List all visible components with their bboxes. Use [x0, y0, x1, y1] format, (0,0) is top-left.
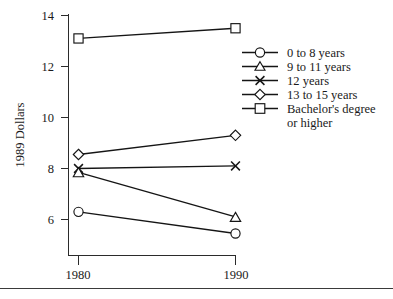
- chart-plot-area: 14 12 10 8 6 1989 Dollars 1980 1990: [0, 0, 393, 299]
- series-line-13-to-15-years: [79, 135, 236, 154]
- legend-label-9-to-11-years: 9 to 11 years: [287, 60, 351, 74]
- chart-figure: 14 12 10 8 6 1989 Dollars 1980 1990: [0, 0, 393, 299]
- legend-entry-12-years[interactable]: 12 years: [242, 74, 329, 88]
- legend-entry-bachelors-degree-or-higher[interactable]: Bachelor's degree or higher: [242, 102, 376, 130]
- legend-label-bachelors-degree-line2: or higher: [287, 116, 333, 130]
- data-point-bachelors-1990: [231, 24, 240, 33]
- y-axis-tick-label-12: 12: [42, 60, 55, 74]
- data-point-9-to-11-years-1990: [230, 212, 240, 221]
- data-point-bachelors-1980: [74, 34, 83, 43]
- data-point-0-to-8-years-1990: [231, 229, 240, 238]
- data-point-13-to-15-years-1980: [73, 149, 83, 159]
- series-9-to-11-years: [73, 168, 240, 222]
- legend-label-13-to-15-years: 13 to 15 years: [287, 88, 358, 102]
- diamond-marker-icon: [255, 89, 266, 99]
- square-marker-icon: [255, 104, 265, 114]
- legend-label-bachelors-degree-line1: Bachelor's degree: [287, 102, 376, 116]
- circle-marker-icon: [255, 48, 264, 57]
- y-axis-tick-label-8: 8: [48, 162, 54, 176]
- series-line-bachelors-degree-or-higher: [79, 28, 236, 38]
- series-group: [73, 24, 240, 238]
- x-axis-tick-label-1980: 1980: [66, 268, 91, 282]
- x-axis: 1980 1990: [66, 256, 249, 283]
- series-12-years: [74, 162, 240, 173]
- x-axis-tick-label-1990: 1990: [224, 268, 249, 282]
- series-bachelors-degree-or-higher: [74, 24, 240, 43]
- y-axis-tick-label-14: 14: [42, 9, 55, 23]
- chart-legend: 0 to 8 years 9 to 11 years 12 years 13 t…: [242, 46, 376, 130]
- legend-label-0-to-8-years: 0 to 8 years: [287, 46, 345, 60]
- y-axis-tick-label-10: 10: [42, 111, 55, 125]
- legend-entry-13-to-15-years[interactable]: 13 to 15 years: [242, 88, 358, 102]
- y-axis: 14 12 10 8 6 1989 Dollars: [13, 9, 69, 256]
- data-point-13-to-15-years-1990: [230, 130, 240, 140]
- legend-entry-9-to-11-years[interactable]: 9 to 11 years: [242, 60, 351, 74]
- legend-entry-0-to-8-years[interactable]: 0 to 8 years: [242, 46, 345, 60]
- series-line-9-to-11-years: [79, 172, 236, 217]
- y-axis-tick-label-6: 6: [48, 213, 54, 227]
- series-line-12-years: [79, 166, 236, 169]
- series-0-to-8-years: [74, 207, 240, 238]
- legend-label-12-years: 12 years: [287, 74, 329, 88]
- y-axis-title: 1989 Dollars: [13, 102, 27, 167]
- data-point-0-to-8-years-1980: [74, 207, 83, 216]
- series-line-0-to-8-years: [79, 212, 236, 234]
- series-13-to-15-years: [73, 130, 240, 160]
